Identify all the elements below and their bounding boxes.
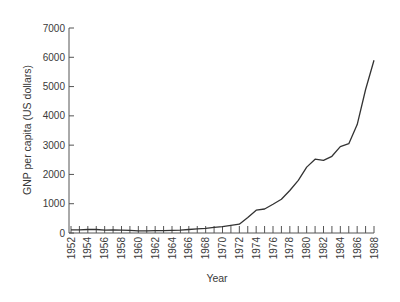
y-tick-label: 3000 <box>43 140 66 151</box>
x-tick-label: 1984 <box>335 237 346 260</box>
x-tick-label: 1978 <box>284 237 295 260</box>
y-axis: 01000200030004000500060007000 <box>43 23 74 239</box>
y-tick-label: 7000 <box>43 23 66 34</box>
y-tick-label: 6000 <box>43 52 66 63</box>
x-tick-label: 1980 <box>301 237 312 260</box>
x-tick-label: 1970 <box>217 237 228 260</box>
y-tick-label: 4000 <box>43 110 66 121</box>
x-tick-label: 1964 <box>167 237 178 260</box>
x-tick-label: 1962 <box>150 237 161 260</box>
x-tick-label: 1954 <box>82 237 93 260</box>
y-axis-title: GNP per capita (US dollars) <box>21 65 33 195</box>
x-tick-label: 1968 <box>200 237 211 260</box>
x-tick-label: 1972 <box>234 237 245 260</box>
line-chart: 01000200030004000500060007000 1952195419… <box>0 0 400 302</box>
x-axis: 1952195419561958196019621964196619681970… <box>66 226 380 259</box>
x-tick-label: 1982 <box>318 237 329 260</box>
y-tick-label: 0 <box>59 228 65 239</box>
x-tick-label: 1988 <box>369 237 380 260</box>
x-tick-label: 1958 <box>116 237 127 260</box>
y-tick-label: 1000 <box>43 198 66 209</box>
x-axis-title: Year <box>206 272 228 284</box>
data-series <box>71 60 374 231</box>
x-tick-label: 1974 <box>251 237 262 260</box>
x-tick-label: 1976 <box>268 237 279 260</box>
x-tick-label: 1966 <box>183 237 194 260</box>
series-line <box>71 60 374 231</box>
x-tick-label: 1956 <box>99 237 110 260</box>
x-tick-label: 1952 <box>66 237 77 260</box>
y-tick-label: 2000 <box>43 169 66 180</box>
x-tick-label: 1960 <box>133 237 144 260</box>
x-tick-label: 1986 <box>352 237 363 260</box>
y-tick-label: 5000 <box>43 81 66 92</box>
